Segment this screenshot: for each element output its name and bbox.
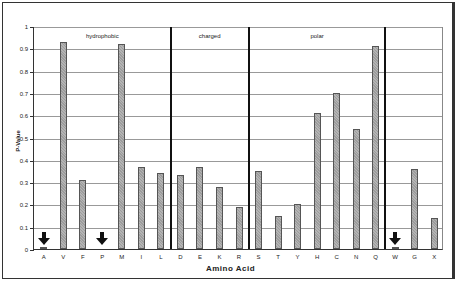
x-tick-label: K [212,254,226,260]
x-tick-label: H [310,254,324,260]
x-tick-label: S [252,254,266,260]
y-tick-label: 0.6 [2,113,28,119]
y-tick-label: 0.9 [2,46,28,52]
y-tick-mark [30,49,34,50]
bar-N [353,129,360,249]
group-label-hydrophobic: hydrophobic [86,33,119,39]
x-tick-label: R [232,254,246,260]
bar-V [60,42,67,249]
y-tick-label: 0.3 [2,180,28,186]
bar-M [118,44,125,249]
x-tick-label: G [408,254,422,260]
y-tick-label: 0.4 [2,158,28,164]
y-tick-mark [30,116,34,117]
y-tick-label: 0.5 [2,136,28,142]
x-tick-label: E [193,254,207,260]
x-tick-label: D [173,254,187,260]
bar-R [236,207,243,249]
y-tick-mark [30,72,34,73]
y-tick-label: 0.2 [2,202,28,208]
x-tick-label: L [154,254,168,260]
bar-A [40,247,47,249]
x-axis-title: Amino Acid [0,264,461,273]
x-tick-label: Y [291,254,305,260]
gridline [34,72,442,73]
gridline [34,183,442,184]
group-divider [170,27,172,249]
y-tick-mark [30,183,34,184]
bar-X [431,218,438,249]
bar-T [275,216,282,249]
group-divider [384,27,386,249]
bar-F [79,180,86,249]
x-tick-label: W [388,254,402,260]
x-tick-label: I [134,254,148,260]
y-tick-mark [30,139,34,140]
gridline [34,94,442,95]
bar-G [411,169,418,249]
y-tick-mark [30,27,34,28]
y-tick-label: 1 [2,24,28,30]
group-label-charged: charged [199,33,221,39]
x-tick-label: N [349,254,363,260]
bar-Q [372,46,379,249]
y-tick-label: 0.1 [2,225,28,231]
gridline [34,139,442,140]
y-tick-mark [30,205,34,206]
y-tick-label: 0.7 [2,91,28,97]
bar-D [177,175,184,249]
x-tick-label: V [56,254,70,260]
x-tick-label: P [95,254,109,260]
x-tick-label: X [427,254,441,260]
x-tick-label: M [115,254,129,260]
y-tick-label: 0 [2,247,28,253]
group-divider [248,27,250,249]
bar-S [255,171,262,249]
y-tick-mark [30,250,34,251]
bar-K [216,187,223,249]
plot-area: 00.10.20.30.40.50.60.70.80.91AVFPMILDEKR… [33,27,443,250]
bar-I [138,167,145,250]
x-tick-label: C [330,254,344,260]
x-tick-label: Q [369,254,383,260]
group-label-polar: polar [310,33,323,39]
y-tick-mark [30,161,34,162]
x-tick-label: F [76,254,90,260]
x-tick-label: A [37,254,51,260]
y-tick-label: 0.8 [2,69,28,75]
gridline [34,49,442,50]
bar-E [196,167,203,250]
gridline [34,116,442,117]
gridline [34,27,442,28]
y-tick-mark [30,94,34,95]
bar-W [392,247,399,249]
bar-L [157,173,164,249]
bar-C [333,93,340,249]
x-tick-label: T [271,254,285,260]
y-tick-mark [30,228,34,229]
bar-H [314,113,321,249]
bar-Y [294,204,301,249]
gridline [34,161,442,162]
